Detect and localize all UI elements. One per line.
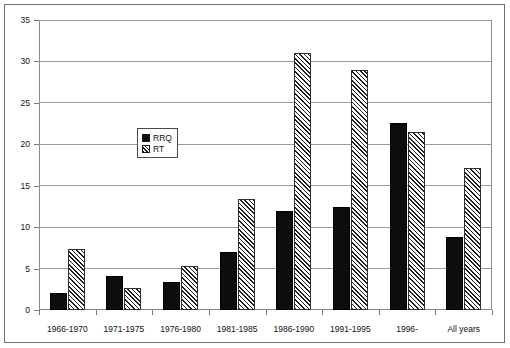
x-tick-label-4: 1986-1990 (273, 324, 314, 334)
bar-rt-5 (351, 70, 368, 310)
x-tick-mark-3 (209, 310, 210, 315)
x-tick-mark-2 (152, 310, 153, 315)
legend-swatch-rrq (142, 134, 150, 142)
y-axis: 05101520253035 (0, 20, 39, 311)
bar-rrq-2 (163, 282, 180, 310)
bar-rt-2 (181, 266, 198, 310)
bar-rrq-3 (220, 252, 237, 310)
bar-rt-7 (464, 168, 481, 311)
x-tick-mark-7 (435, 310, 436, 315)
bar-rt-6 (408, 132, 425, 310)
x-tick-mark-5 (322, 310, 323, 315)
bar-rrq-7 (446, 237, 463, 310)
y-tick-label-5: 5 (25, 264, 30, 274)
y-tick-label-25: 25 (21, 98, 30, 108)
x-tick-label-1: 1971-1975 (104, 324, 145, 334)
bar-rrq-0 (50, 293, 67, 310)
bar-rt-3 (238, 199, 255, 310)
x-tick-mark-4 (266, 310, 267, 315)
x-tick-label-3: 1981-1985 (217, 324, 258, 334)
legend-label-rrq: RRQ (153, 133, 172, 143)
plot-area: RRQ RT (39, 20, 492, 310)
chart-figure: 05101520253035 RRQ RT 1966-19701971-1975… (0, 0, 510, 348)
bar-rt-1 (124, 288, 141, 310)
bar-rrq-1 (106, 276, 123, 310)
x-tick-label-7: All years (447, 324, 480, 334)
y-tick-label-10: 10 (21, 222, 30, 232)
x-tick-mark-1 (96, 310, 97, 315)
chart-legend: RRQ RT (137, 128, 178, 158)
bar-rrq-6 (390, 123, 407, 310)
legend-item-rrq: RRQ (142, 132, 172, 143)
x-tick-label-6: 1996- (396, 324, 418, 334)
y-tick-label-0: 0 (25, 305, 30, 315)
legend-label-rt: RT (153, 144, 164, 154)
x-tick-label-5: 1991-1995 (330, 324, 371, 334)
y-tick-label-35: 35 (21, 15, 30, 25)
x-tick-label-0: 1966-1970 (47, 324, 88, 334)
legend-item-rt: RT (142, 143, 172, 154)
gridline-30 (39, 61, 492, 62)
bar-rt-4 (294, 53, 311, 310)
x-axis: 1966-19701971-19751976-19801981-19851986… (39, 310, 493, 348)
y-tick-label-20: 20 (21, 139, 30, 149)
gridline-35 (39, 20, 492, 21)
x-tick-mark-end (492, 310, 493, 315)
legend-swatch-rt (142, 145, 150, 153)
y-tick-label-15: 15 (21, 181, 30, 191)
y-tick-label-30: 30 (21, 56, 30, 66)
gridline-25 (39, 102, 492, 103)
bar-rrq-5 (333, 207, 350, 310)
x-tick-label-2: 1976-1980 (160, 324, 201, 334)
bar-rt-0 (68, 249, 85, 310)
x-tick-mark-6 (379, 310, 380, 315)
bar-rrq-4 (276, 211, 293, 310)
x-tick-mark-0 (39, 310, 40, 315)
